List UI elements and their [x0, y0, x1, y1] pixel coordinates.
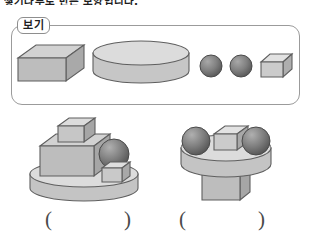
- example-shape-cylinder: [92, 41, 190, 87]
- example-shape-small-cube: [261, 53, 293, 80]
- answer-left-open-paren: (: [45, 206, 52, 232]
- answer-right-open-paren: (: [179, 206, 186, 232]
- example-shape-sphere-a: [199, 54, 223, 78]
- composite-figure-right: [176, 112, 276, 207]
- top-prompt-text: 쌓기나무로 만든 모양입니다.: [4, 0, 204, 5]
- answer-left-close-paren: ): [124, 206, 131, 232]
- example-shape-rectangular-prism: [18, 44, 88, 86]
- example-shape-sphere-b: [229, 54, 253, 78]
- answer-row: ( ) ( ): [0, 206, 312, 236]
- answer-right-close-paren: ): [258, 206, 265, 232]
- composite-figure-left: [26, 112, 142, 204]
- example-box-label: 보기: [17, 17, 50, 34]
